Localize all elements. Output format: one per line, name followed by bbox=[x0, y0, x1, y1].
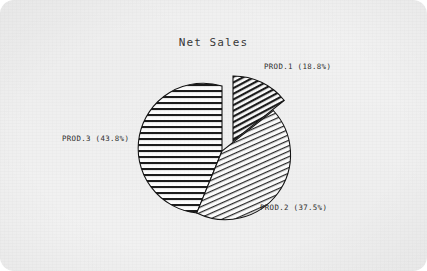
pie-label-prod1: PROD.1 (18.8%) bbox=[264, 62, 331, 71]
pie-label-prod2: PROD.2 (37.5%) bbox=[260, 203, 327, 212]
scanned-figure-page: Net Sales bbox=[0, 0, 427, 271]
pie-label-prod3: PROD.3 (43.8%) bbox=[62, 134, 129, 143]
pie-chart-figure: Net Sales bbox=[0, 0, 427, 271]
